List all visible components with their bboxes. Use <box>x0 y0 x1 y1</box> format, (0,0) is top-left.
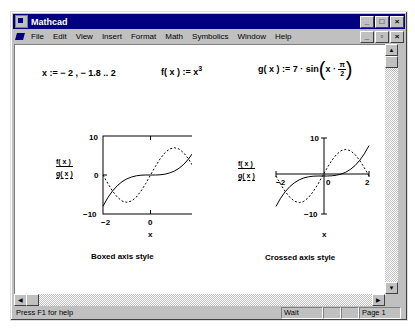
boxed-plot-svg: 10 0 −10 −2 0 2 x <box>77 129 192 239</box>
f-curve <box>103 144 192 206</box>
window-title: Mathcad <box>31 17 359 27</box>
x-tick-0: 0 <box>326 178 331 187</box>
x-tick-neg2: −2 <box>276 178 286 187</box>
boxed-legend: f( x ) g( x ) <box>56 158 73 179</box>
mathcad-app-icon[interactable] <box>15 15 28 28</box>
doc-restore-button[interactable]: ▫ <box>375 31 389 43</box>
vertical-scrollbar[interactable]: ▲ ▼ <box>385 44 398 294</box>
x-tick-0: 0 <box>148 218 153 227</box>
f-definition[interactable]: f( x ) := x3 <box>161 65 202 77</box>
doc-close-button[interactable]: × <box>390 31 404 43</box>
document-icon[interactable] <box>15 32 27 42</box>
y-tick-neg10: −10 <box>83 210 97 219</box>
horizontal-scrollbar[interactable]: ◀ ▶ <box>14 294 385 306</box>
menu-edit[interactable]: Edit <box>53 32 67 41</box>
legend-g: g( x ) <box>56 170 73 179</box>
caption-crossed: Crossed axis style <box>265 253 335 262</box>
status-cell-2 <box>323 307 341 319</box>
x-axis-label: x <box>148 230 153 239</box>
status-cell-3 <box>341 307 359 319</box>
menu-bar: File Edit View Insert Format Math Symbol… <box>13 30 405 43</box>
crossed-legend: f( x ) g( x ) <box>238 160 255 181</box>
f-exponent: 3 <box>198 65 202 72</box>
y-tick-neg10: −10 <box>304 210 318 219</box>
g-definition-arg: x · <box>325 64 336 74</box>
worksheet[interactable]: x := − 2 , − 1.8 .. 2 f( x ) := x3 g( x … <box>14 44 386 295</box>
x-axis-label: x <box>322 230 327 239</box>
doc-minimize-button[interactable]: _ <box>360 31 374 43</box>
legend-g: g( x ) <box>238 172 255 181</box>
fraction-numerator: π <box>338 61 345 70</box>
menu-help[interactable]: Help <box>275 32 291 41</box>
x-tick-neg2: −2 <box>101 218 111 227</box>
caption-boxed: Boxed axis style <box>91 252 154 261</box>
x-tick-2: 2 <box>365 178 370 187</box>
fraction-denominator: 2 <box>338 70 345 78</box>
pi-over-2-fraction: π 2 <box>338 61 345 78</box>
boxed-plot[interactable]: 10 0 −10 −2 0 2 x <box>77 129 192 239</box>
status-help-text: Press F1 for help <box>13 307 281 319</box>
status-mode: Wait <box>281 307 323 319</box>
mathcad-window: Mathcad _ □ × File Edit View Insert Form… <box>10 11 408 321</box>
f-definition-lhs: f( x ) := x <box>161 67 198 77</box>
right-paren: ) <box>346 58 353 80</box>
minimize-button[interactable]: _ <box>360 16 374 28</box>
menu-math[interactable]: Math <box>165 32 183 41</box>
menu-insert[interactable]: Insert <box>102 32 122 41</box>
maximize-button[interactable]: □ <box>375 16 389 28</box>
close-button[interactable]: × <box>390 16 404 28</box>
status-bar: Press F1 for help Wait Page 1 <box>13 307 405 318</box>
legend-f: f( x ) <box>56 158 73 167</box>
menu-file[interactable]: File <box>31 32 44 41</box>
title-bar[interactable]: Mathcad _ □ × <box>13 14 405 29</box>
menu-format[interactable]: Format <box>131 32 156 41</box>
status-page: Page 1 <box>359 307 401 319</box>
menu-symbolics[interactable]: Symbolics <box>192 32 228 41</box>
menu-view[interactable]: View <box>76 32 93 41</box>
y-tick-10: 10 <box>89 133 98 142</box>
range-definition[interactable]: x := − 2 , − 1.8 .. 2 <box>42 68 116 78</box>
menu-window[interactable]: Window <box>238 32 266 41</box>
scroll-right-button[interactable]: ▶ <box>372 294 385 306</box>
y-tick-0: 0 <box>94 171 99 180</box>
scroll-down-button[interactable]: ▼ <box>385 282 398 294</box>
g-definition-lhs: g( x ) := 7 · sin <box>258 64 319 74</box>
legend-f: f( x ) <box>238 160 255 169</box>
g-curve <box>276 149 369 202</box>
crossed-plot-svg: 10 −10 −2 0 2 x <box>255 129 380 249</box>
g-definition[interactable]: g( x ) := 7 · sin(x · π 2 ) <box>258 58 353 81</box>
vertical-scroll-thumb[interactable] <box>385 56 398 68</box>
crossed-plot[interactable]: 10 −10 −2 0 2 x <box>255 129 380 249</box>
scroll-up-button[interactable]: ▲ <box>385 44 398 56</box>
y-tick-10: 10 <box>310 134 319 143</box>
horizontal-scroll-thumb[interactable] <box>26 294 39 306</box>
